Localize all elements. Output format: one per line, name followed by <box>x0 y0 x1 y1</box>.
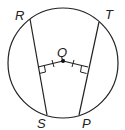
chord-tp <box>79 22 99 115</box>
label-s: S <box>37 116 46 130</box>
perpendicular-q-to-tp <box>63 61 88 67</box>
circle-chords-diagram: R T Q S P <box>0 0 125 130</box>
label-q: Q <box>57 45 67 60</box>
label-r: R <box>15 8 24 23</box>
label-t: T <box>105 7 114 22</box>
label-p: P <box>82 116 91 130</box>
diagram-canvas: R T Q S P <box>0 0 125 130</box>
perpendicular-q-to-rs <box>38 61 63 67</box>
